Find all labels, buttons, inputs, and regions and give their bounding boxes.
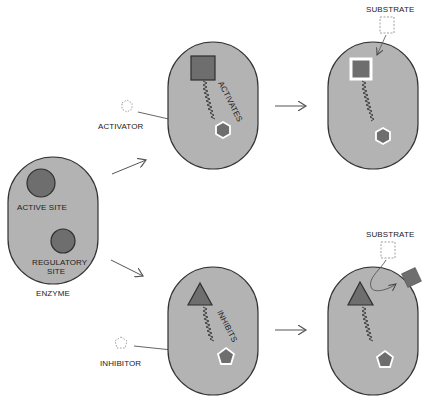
activator-label: ACTIVATOR xyxy=(98,122,143,131)
substrate-ghost-square xyxy=(381,242,395,258)
regulatory-site xyxy=(51,229,75,253)
substrate-ghost-square xyxy=(380,17,394,33)
active-site-label: ACTIVE SITE xyxy=(17,203,67,212)
regulatory-site-label-line2: SITE xyxy=(47,267,65,276)
enzyme-body xyxy=(168,267,258,395)
enzyme-body xyxy=(328,267,418,395)
inhibition-result-panel: SUBSTRATE xyxy=(328,230,421,395)
substrate-bound-square xyxy=(351,59,371,79)
allosteric-regulation-diagram: ACTIVE SITE REGULATORY SITE ENZYME ACTIV… xyxy=(0,0,427,404)
activation-result-panel: SUBSTRATE xyxy=(328,5,418,169)
active-site-square xyxy=(191,56,215,80)
enzyme-panel: ACTIVE SITE REGULATORY SITE ENZYME xyxy=(8,157,98,298)
inhibitor-pentagon-icon xyxy=(115,337,127,348)
substrate-label: SUBSTRATE xyxy=(366,5,414,14)
activator-hexagon-icon xyxy=(376,128,390,144)
substrate-label: SUBSTRATE xyxy=(366,230,414,239)
inhibitor-label: INHIBITOR xyxy=(100,359,141,368)
enzyme-label: ENZYME xyxy=(36,289,70,298)
arrow-right-icon xyxy=(112,160,146,174)
enzyme-body xyxy=(328,42,418,169)
activator-hexagon-icon xyxy=(216,122,230,138)
regulatory-site-label-line1: REGULATORY xyxy=(32,258,88,267)
active-site xyxy=(27,169,55,197)
activator-hexagon-icon xyxy=(122,100,132,112)
activation-bound-panel: ACTIVATOR ACTIVATES xyxy=(98,42,258,169)
arrow-right-icon xyxy=(111,260,143,276)
inhibition-bound-panel: INHIBITOR INHIBITS xyxy=(100,267,258,395)
